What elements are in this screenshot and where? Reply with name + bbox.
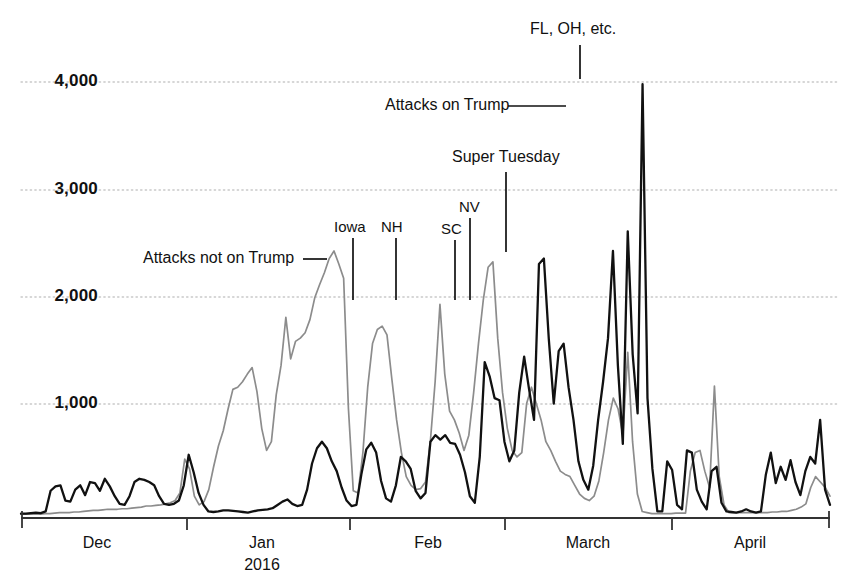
y-axis-label-1000: 1,000 — [18, 393, 98, 413]
line-chart-canvas — [0, 0, 842, 583]
chart-figure: 4,000 3,000 2,000 1,000 Dec Jan 2016 Feb… — [0, 0, 842, 583]
gridlines — [21, 82, 838, 404]
annotation-nh: NH — [381, 218, 403, 235]
annotation-attacks-on-trump: Attacks on Trump — [385, 96, 510, 114]
annotation-fl-oh-etc: FL, OH, etc. — [530, 20, 616, 38]
annotation-attacks-not-on-trump: Attacks not on Trump — [143, 249, 294, 267]
y-axis-label-2000: 2,000 — [18, 286, 98, 306]
x-axis-label-feb: Feb — [388, 534, 468, 552]
annotation-nv: NV — [459, 198, 480, 215]
y-axis-label-3000: 3,000 — [18, 179, 98, 199]
series-attacks-on-trump — [21, 84, 830, 513]
annotation-leaders — [303, 45, 580, 300]
x-axis-label-year: 2016 — [222, 556, 302, 574]
x-axis-label-march: March — [548, 534, 628, 552]
annotation-super-tuesday: Super Tuesday — [452, 148, 560, 166]
y-axis-label-4000: 4,000 — [18, 71, 98, 91]
x-axis-label-april: April — [710, 534, 790, 552]
x-axis — [21, 511, 830, 530]
x-axis-label-jan: Jan — [222, 534, 302, 552]
annotation-iowa: Iowa — [334, 218, 366, 235]
annotation-sc: SC — [441, 220, 462, 237]
series-attacks-not-on-trump — [21, 251, 830, 514]
x-axis-label-dec: Dec — [57, 534, 137, 552]
